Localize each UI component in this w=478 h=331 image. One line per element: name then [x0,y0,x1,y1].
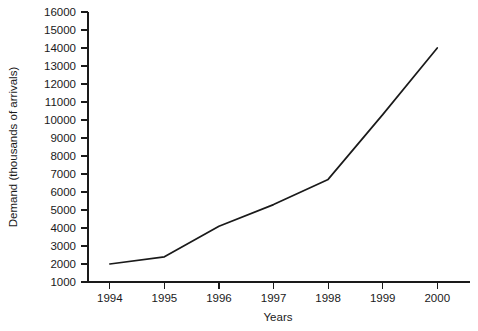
y-axis-tick-label: 2000 [50,258,76,270]
x-axis-tick-label: 1999 [370,292,396,304]
y-axis-tick-label: 9000 [50,132,76,144]
y-axis-title: Demand (thousands of arrivals) [7,67,19,228]
data-series-group [110,48,437,264]
x-axis-title: Years [264,311,293,323]
y-axis-tick-label: 4000 [50,222,76,234]
y-axis-tick-label: 10000 [44,114,76,126]
x-axis-tick-label: 1996 [206,292,232,304]
x-axis-tick-label: 1994 [97,292,123,304]
line-chart: 1000200030004000500060007000800090001000… [0,0,478,331]
x-axis-tick-label: 2000 [424,292,450,304]
x-axis-tick-label: 1998 [315,292,341,304]
y-axis-tick-label: 7000 [50,168,76,180]
y-axis-tick-label: 14000 [44,42,76,54]
y-axis-tick-label: 3000 [50,240,76,252]
x-axis-tick-label: 1995 [152,292,178,304]
y-axis: 1000200030004000500060007000800090001000… [44,6,88,288]
y-axis-tick-label: 13000 [44,60,76,72]
y-axis-tick-label: 5000 [50,204,76,216]
y-axis-tick-label: 6000 [50,186,76,198]
y-axis-tick-label: 11000 [45,96,76,108]
y-axis-tick-label: 15000 [44,24,76,36]
x-axis-tick-label: 1997 [261,292,287,304]
y-axis-tick-label: 12000 [44,78,76,90]
y-axis-tick-label: 8000 [50,150,76,162]
y-axis-tick-label: 1000 [50,276,76,288]
data-line-demand [110,48,437,264]
chart-canvas: 1000200030004000500060007000800090001000… [0,0,478,331]
y-axis-tick-label: 16000 [44,6,76,18]
x-axis: 1994199519961997199819992000 [88,282,470,304]
